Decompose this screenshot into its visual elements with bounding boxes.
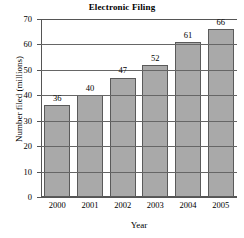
y-tick-label-wrap-50: 50: [10, 66, 32, 75]
y-tick-label-10: 10: [10, 168, 32, 177]
bar-value-label-2002: 47: [110, 66, 136, 75]
y-tick-label-wrap-10: 10: [10, 168, 32, 177]
y-tick-label-40: 40: [10, 91, 32, 100]
y-tick-label-wrap-40: 40: [10, 91, 32, 100]
gridline-60: [41, 44, 237, 45]
y-tick-label-70: 70: [10, 15, 32, 24]
x-tick-label-2004: 2004: [171, 200, 205, 210]
y-tick-label-0: 0: [10, 193, 32, 202]
bar-value-label-2004: 61: [175, 31, 201, 40]
x-tick-label-2003: 2003: [138, 200, 172, 210]
x-axis-title: Year: [41, 220, 237, 230]
y-tick-label-50: 50: [10, 66, 32, 75]
chart-title: Electronic Filing: [0, 2, 244, 13]
bar-2003: [142, 65, 168, 197]
plot-area: [41, 19, 237, 197]
bar-value-label-2003: 52: [142, 54, 168, 63]
x-tick-label-2002: 2002: [106, 200, 140, 210]
bar-chart: Electronic Filing Number filed (millions…: [0, 0, 244, 238]
y-tick-label-wrap-60: 60: [10, 40, 32, 49]
gridline-40: [41, 95, 237, 96]
y-tick-label-20: 20: [10, 142, 32, 151]
bar-value-label-2001: 40: [77, 84, 103, 93]
x-tick-label-2000: 2000: [40, 200, 74, 210]
y-tick-label-wrap-30: 30: [10, 117, 32, 126]
y-tick-label-wrap-0: 0: [10, 193, 32, 202]
x-tick-label-2001: 2001: [73, 200, 107, 210]
bar-value-label-2005: 66: [208, 18, 234, 27]
gridline-50: [41, 70, 237, 71]
bar-2000: [44, 105, 70, 197]
y-tick-label-30: 30: [10, 117, 32, 126]
y-tick-label-60: 60: [10, 40, 32, 49]
y-tick-label-wrap-70: 70: [10, 15, 32, 24]
bar-value-label-2000: 36: [44, 94, 70, 103]
gridline-10: [41, 172, 237, 173]
gridline-30: [41, 121, 237, 122]
bar-2004: [175, 42, 201, 197]
gridline-20: [41, 146, 237, 147]
x-tick-label-2005: 2005: [204, 200, 238, 210]
y-tick-label-wrap-20: 20: [10, 142, 32, 151]
gridline-0: [41, 197, 237, 198]
